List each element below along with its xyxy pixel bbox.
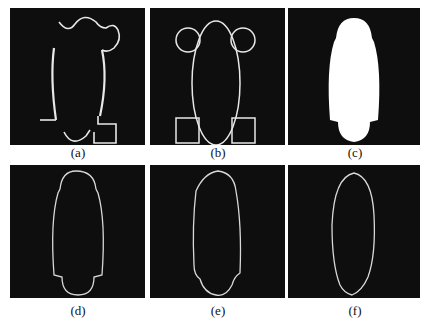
panel-e [150,165,285,298]
caption-d: (d) [48,303,108,319]
panel-a [10,8,145,145]
evolved-contour-image [150,165,285,298]
caption-f: (f) [325,303,385,319]
panel-f [288,165,420,298]
panel-d [10,165,145,298]
caption-a: (a) [48,145,108,161]
final-contour-image [288,165,420,298]
initial-shapes-image [150,8,285,145]
filled-shape-image [288,8,420,145]
caption-c: (c) [325,145,385,161]
broken-contour-image [10,8,145,145]
panel-b [150,8,285,145]
panel-c [288,8,420,145]
caption-e: (e) [188,303,248,319]
caption-b: (b) [188,145,248,161]
shape-outline-image [10,165,145,298]
